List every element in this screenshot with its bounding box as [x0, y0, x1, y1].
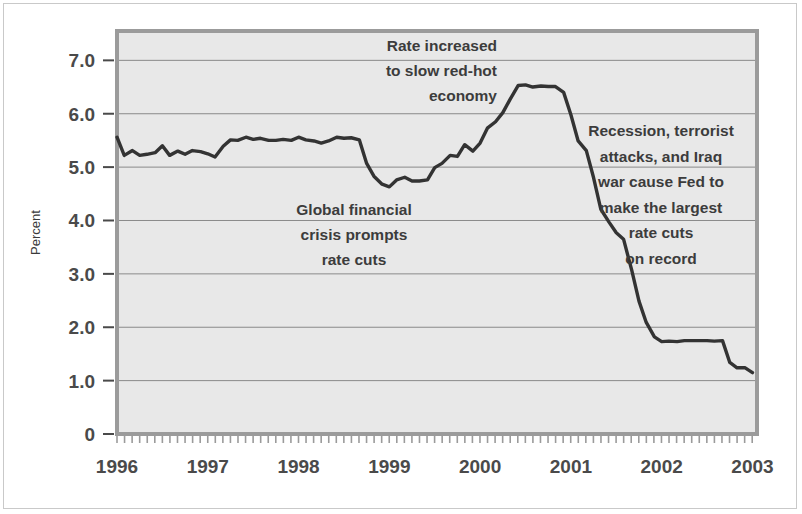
x-tick-label-2003: 2003 [731, 456, 773, 477]
annotation-global-financial-crisis-line: Global financial [296, 201, 411, 218]
annotation-rate-increased-line: to slow red-hot [386, 62, 497, 79]
annotation-recession-rate-cuts-line: make the largest [600, 199, 722, 216]
x-tick-label-1996: 1996 [96, 456, 138, 477]
x-tick-label-1999: 1999 [368, 456, 410, 477]
y-axis: 7.06.05.04.03.02.01.00 [69, 50, 114, 445]
chart-figure: 7.06.05.04.03.02.01.00 19961997199819992… [0, 0, 802, 514]
annotation-rate-increased-line: Rate increased [387, 37, 497, 54]
x-axis: 19961997199819992000200120022003 [96, 456, 774, 477]
y-tick-label-6.0: 6.0 [69, 104, 95, 125]
annotation-recession-rate-cuts-line: on record [625, 250, 696, 267]
x-tick-label-2000: 2000 [459, 456, 501, 477]
y-tick-label-2.0: 2.0 [69, 317, 95, 338]
annotation-recession-rate-cuts-line: rate cuts [629, 224, 694, 241]
annotation-global-financial-crisis-line: crisis prompts [301, 226, 408, 243]
y-axis-title: Percent [28, 210, 43, 255]
x-tick-label-1998: 1998 [277, 456, 319, 477]
annotation-recession-rate-cuts-line: Recession, terrorist [588, 122, 734, 139]
x-tick-label-2002: 2002 [641, 456, 683, 477]
annotation-recession-rate-cuts-line: attacks, and Iraq [600, 148, 722, 165]
y-tick-label-5.0: 5.0 [69, 157, 95, 178]
y-tick-label-0: 0 [84, 424, 95, 445]
x-axis-minor-ticks [117, 436, 752, 443]
y-tick-label-1.0: 1.0 [69, 371, 95, 392]
x-tick-label-2001: 2001 [550, 456, 593, 477]
federal-funds-rate-line-chart: 7.06.05.04.03.02.01.00 19961997199819992… [0, 0, 802, 514]
annotation-recession-rate-cuts-line: war cause Fed to [597, 173, 724, 190]
y-tick-label-7.0: 7.0 [69, 50, 95, 71]
y-tick-label-3.0: 3.0 [69, 264, 95, 285]
x-tick-label-1997: 1997 [187, 456, 229, 477]
annotation-rate-increased-line: economy [429, 87, 497, 104]
annotation-global-financial-crisis-line: rate cuts [322, 251, 387, 268]
y-tick-label-4.0: 4.0 [69, 210, 95, 231]
